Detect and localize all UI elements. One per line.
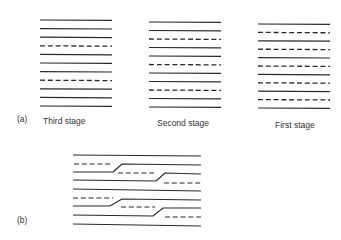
third-stage-caption: Third stage (43, 116, 86, 126)
second-stage-panel (149, 22, 221, 107)
solid-layer-line (73, 173, 201, 181)
part-b-label: (b) (17, 215, 27, 225)
third-stage-panel (40, 20, 112, 106)
solid-layer-line (73, 189, 201, 191)
second-stage-caption: Second stage (157, 118, 209, 128)
solid-layer-line (73, 164, 201, 172)
part-a-stages (40, 20, 330, 108)
part-b-offset-layers (73, 155, 201, 226)
solid-layer-line (73, 224, 201, 226)
solid-layer-line (73, 199, 201, 206)
solid-layer-line (73, 155, 201, 156)
first-stage-caption: First stage (275, 120, 315, 130)
solid-layer-line (73, 208, 201, 216)
part-a-label: (a) (17, 114, 27, 124)
first-stage-panel (258, 24, 330, 108)
